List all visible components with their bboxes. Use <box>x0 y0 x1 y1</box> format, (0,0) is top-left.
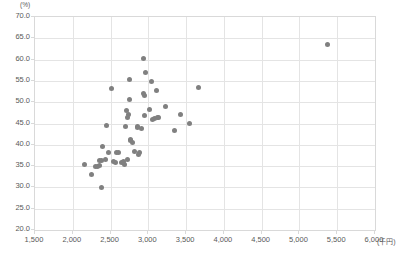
data-point <box>196 85 201 90</box>
x-axis-tick-mark <box>110 231 111 234</box>
data-point <box>143 70 148 75</box>
data-point <box>142 93 147 98</box>
data-point <box>172 128 177 133</box>
y-axis-tick-mark <box>31 165 34 166</box>
gridline-horizontal <box>35 60 375 61</box>
y-axis-tick-mark <box>31 229 34 230</box>
y-axis-tick-label: 50.0 <box>0 97 30 105</box>
x-axis-tick-mark <box>34 231 35 234</box>
x-axis-tick-label: 3,000 <box>127 236 167 244</box>
data-point <box>113 160 118 165</box>
x-axis-tick-mark <box>261 231 262 234</box>
gridline-horizontal <box>35 38 375 39</box>
y-axis-tick-mark <box>31 123 34 124</box>
gridline-horizontal <box>35 145 375 146</box>
scatter-chart: (%) 20.025.030.035.040.045.050.055.060.0… <box>0 0 405 256</box>
gridline-horizontal <box>35 124 375 125</box>
data-point <box>142 113 147 118</box>
x-axis-tick-label: 4,500 <box>241 236 281 244</box>
x-axis-tick-mark <box>185 231 186 234</box>
gridline-horizontal <box>35 209 375 210</box>
data-point <box>325 42 330 47</box>
data-point <box>154 88 159 93</box>
y-axis-tick-label: 40.0 <box>0 140 30 148</box>
data-point <box>126 112 131 117</box>
y-axis-tick-mark <box>31 101 34 102</box>
y-axis-tick-mark <box>31 144 34 145</box>
gridline-horizontal <box>35 81 375 82</box>
data-point <box>163 104 168 109</box>
data-point <box>106 150 111 155</box>
data-point <box>99 185 104 190</box>
x-axis-tick-label: 5,500 <box>316 236 356 244</box>
data-point <box>100 144 105 149</box>
y-axis-tick-label: 35.0 <box>0 161 30 169</box>
data-point <box>187 121 192 126</box>
data-point <box>139 126 144 131</box>
y-axis-tick-mark <box>31 80 34 81</box>
data-point <box>116 150 121 155</box>
y-axis-tick-mark <box>31 59 34 60</box>
x-axis-tick-label: 4,000 <box>203 236 243 244</box>
y-axis-tick-mark <box>31 186 34 187</box>
x-axis-tick-mark <box>298 231 299 234</box>
y-axis-tick-label: 25.0 <box>0 204 30 212</box>
data-point <box>104 123 109 128</box>
y-axis-tick-label: 45.0 <box>0 119 30 127</box>
y-axis-tick-label: 65.0 <box>0 33 30 41</box>
y-axis-tick-mark <box>31 208 34 209</box>
x-axis-tick-label: 5,000 <box>278 236 318 244</box>
data-point <box>130 140 135 145</box>
x-axis-tick-mark <box>336 231 337 234</box>
data-point <box>123 124 128 129</box>
gridline-horizontal <box>35 187 375 188</box>
y-axis-tick-mark <box>31 16 34 17</box>
x-axis-tick-label: 3,500 <box>165 236 205 244</box>
y-axis-tick-label: 20.0 <box>0 225 30 233</box>
data-point <box>125 157 130 162</box>
plot-area <box>34 16 376 231</box>
x-axis-tick-mark <box>72 231 73 234</box>
x-axis-tick-mark <box>223 231 224 234</box>
data-point <box>109 86 114 91</box>
x-axis-tick-label: 2,500 <box>90 236 130 244</box>
y-axis-tick-label: 70.0 <box>0 12 30 20</box>
x-axis-unit-label: (千円) <box>377 236 396 246</box>
data-point <box>103 157 108 162</box>
data-point <box>141 56 146 61</box>
x-axis-tick-label: 1,500 <box>14 236 54 244</box>
data-point <box>156 115 161 120</box>
y-axis-tick-mark <box>31 37 34 38</box>
data-point <box>89 172 94 177</box>
data-point <box>137 150 142 155</box>
data-point <box>127 77 132 82</box>
data-point <box>149 79 154 84</box>
data-point <box>178 112 183 117</box>
y-axis-tick-label: 55.0 <box>0 76 30 84</box>
y-axis-tick-label: 60.0 <box>0 55 30 63</box>
data-point <box>147 107 152 112</box>
gridline-horizontal <box>35 102 375 103</box>
x-axis-tick-label: 2,000 <box>52 236 92 244</box>
x-axis-tick-mark <box>374 231 375 234</box>
y-axis-tick-label: 30.0 <box>0 182 30 190</box>
data-point <box>97 163 102 168</box>
y-axis-unit-label: (%) <box>20 1 30 8</box>
x-axis-tick-mark <box>147 231 148 234</box>
